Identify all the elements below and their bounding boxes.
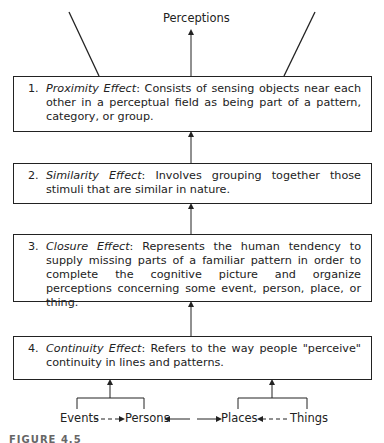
box-number: 1. bbox=[28, 82, 39, 96]
proximity-effect-box: 1.Proximity Effect: Consists of sensing … bbox=[13, 76, 372, 132]
box-number: 3. bbox=[28, 240, 39, 254]
continuity-effect-box: 4.Continuity Effect: Refers to the way p… bbox=[13, 336, 372, 380]
figure-caption: FIGURE 4.5 bbox=[9, 434, 82, 443]
box-term: Closure Effect bbox=[46, 240, 130, 253]
perceptions-label: Perceptions bbox=[163, 11, 230, 25]
closure-effect-box: 3.Closure Effect: Represents the human t… bbox=[13, 234, 372, 302]
similarity-effect-box: 2.Similarity Effect: Involves grouping t… bbox=[13, 163, 372, 204]
persons-label: Persons bbox=[125, 411, 170, 425]
places-label: Places bbox=[221, 411, 258, 425]
box-term: Similarity Effect bbox=[46, 169, 142, 182]
events-label: Events bbox=[60, 411, 99, 425]
box-number: 2. bbox=[28, 169, 39, 183]
things-label: Things bbox=[290, 411, 328, 425]
box-term: Continuity Effect bbox=[46, 342, 141, 355]
box-number: 4. bbox=[28, 342, 39, 356]
box-term: Proximity Effect bbox=[46, 82, 136, 95]
